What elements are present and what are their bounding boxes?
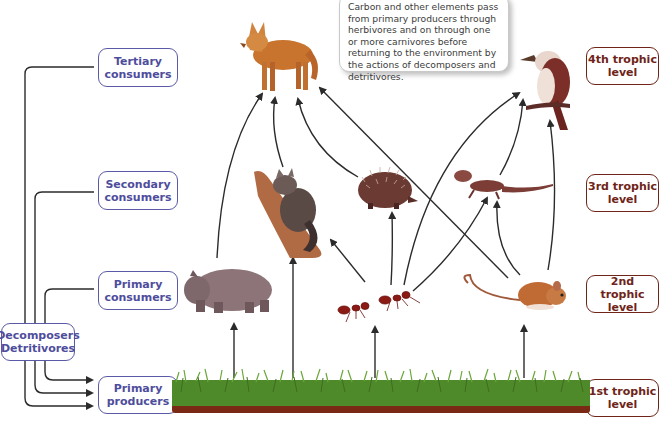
kookaburra-illustration bbox=[520, 51, 570, 130]
lizard-illustration bbox=[454, 170, 553, 199]
mouse-illustration bbox=[464, 275, 566, 310]
ants-illustration bbox=[338, 292, 420, 323]
organisms-layer bbox=[0, 0, 662, 423]
possum-illustration bbox=[254, 168, 321, 258]
grass-illustration bbox=[172, 369, 590, 413]
dingo-illustration bbox=[240, 22, 318, 91]
echidna-illustration bbox=[358, 167, 418, 209]
wombat-illustration bbox=[184, 269, 272, 313]
